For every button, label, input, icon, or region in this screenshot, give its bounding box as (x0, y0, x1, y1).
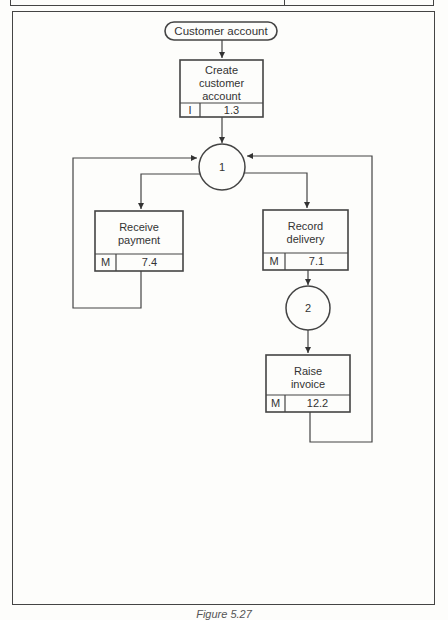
raise-type-code: M (266, 397, 285, 410)
title-line: Raise (266, 365, 350, 378)
record-delivery-title: Record delivery (263, 220, 348, 246)
state-2-label: 2 (298, 302, 318, 315)
receive-type-code: M (95, 256, 116, 269)
create-account-title: Create customer account (180, 64, 263, 103)
title-line: payment (95, 234, 183, 247)
figure-caption: Figure 5.27 (0, 608, 448, 620)
record-type-code: M (263, 255, 285, 268)
title-line: Record (263, 220, 348, 233)
raise-invoice-title: Raise invoice (266, 365, 350, 391)
create-ref: 1.3 (200, 104, 263, 117)
receive-payment-title: Receive payment (95, 221, 183, 247)
raise-ref: 12.2 (285, 397, 350, 410)
title-line: account (180, 90, 263, 103)
title-line: delivery (263, 233, 348, 246)
entity-label: Customer account (165, 25, 277, 38)
title-line: Receive (95, 221, 183, 234)
title-line: customer (180, 77, 263, 90)
title-line: invoice (266, 378, 350, 391)
state-1-label: 1 (212, 161, 232, 174)
title-line: Create (180, 64, 263, 77)
record-ref: 7.1 (285, 255, 348, 268)
receive-ref: 7.4 (116, 256, 183, 269)
create-type-code: I (180, 104, 200, 117)
